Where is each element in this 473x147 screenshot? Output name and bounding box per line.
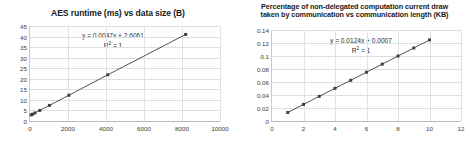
x-axis-tick-label: 10 [426,125,433,132]
y-axis-tick-label: 25 [20,65,27,72]
y-axis-tick-label: 0 [266,118,269,125]
y-axis-tick-label: 15 [20,86,27,93]
data-point-marker [286,111,289,114]
data-point-marker [381,63,384,66]
data-point-marker [33,111,36,114]
gridline-vertical [461,30,462,121]
x-axis-tick-label: 8000 [175,125,189,132]
plot-area-comm: y = 0.0124x + 0.0007 R2 = 1 00.020.040.0… [271,30,461,122]
y-axis-tick-label: 10 [20,96,27,103]
plot-area-aes: y = 0.0047x + 2.6061 R2 = 1 051015202530… [29,26,220,122]
y-axis-tick-label: 0.12 [257,40,269,47]
data-point-marker [38,109,41,112]
y-axis-tick-label: 5 [24,107,27,114]
y-axis-tick-label: 20 [20,75,27,82]
data-series [272,30,461,121]
x-axis-tick-label: 8 [396,125,399,132]
chart-title-aes: AES runtime (ms) vs data size (B) [0,9,236,19]
x-axis-tick-label: 0 [270,125,273,132]
gridline-vertical [220,26,221,121]
x-axis-tick-label: 6000 [137,125,151,132]
y-axis-tick-label: 0.06 [257,79,269,86]
data-point-marker [412,47,415,50]
y-axis-tick-label: 0.14 [257,27,269,34]
y-axis-tick-label: 0.04 [257,92,269,99]
data-point-marker [349,79,352,82]
chart-title-line: AES runtime (ms) vs data size (B) [0,9,236,19]
data-point-marker [334,87,337,90]
y-axis-tick-label: 0.08 [257,66,269,73]
data-series [30,26,220,121]
x-axis-tick-label: 2000 [61,125,75,132]
x-axis-tick-label: 12 [458,125,465,132]
y-axis-tick-label: 40 [20,33,27,40]
chart-title-comm: Percentage of non-delegated computation … [236,3,473,19]
x-axis-tick-label: 10000 [211,125,228,132]
y-axis-tick-label: 45 [20,23,27,30]
x-axis-tick-label: 6 [365,125,368,132]
figure-sheet: AES runtime (ms) vs data size (B) y = 0.… [0,0,473,147]
y-axis-tick-label: 0 [24,118,27,125]
y-axis-tick-label: 35 [20,44,27,51]
data-point-marker [184,33,187,36]
data-point-marker [302,103,305,106]
x-axis-tick-label: 2 [302,125,305,132]
trendline-path [288,40,430,113]
x-axis-tick-label: 0 [28,125,31,132]
y-axis-tick-label: 30 [20,54,27,61]
data-point-marker [106,73,109,76]
x-axis-tick-label: 4000 [99,125,113,132]
chart-aes-runtime: AES runtime (ms) vs data size (B) y = 0.… [0,0,236,147]
chart-comm-current-draw: Percentage of non-delegated computation … [236,0,473,147]
data-point-marker [365,71,368,74]
chart-title-line: taken by communication vs communication … [236,11,473,19]
data-point-marker [397,55,400,58]
data-point-marker [318,95,321,98]
data-point-marker [67,94,70,97]
data-point-marker [48,104,51,107]
x-axis-tick-label: 4 [333,125,336,132]
y-axis-tick-label: 0.1 [260,53,269,60]
y-axis-tick-label: 0.02 [257,105,269,112]
data-point-marker [428,38,431,41]
